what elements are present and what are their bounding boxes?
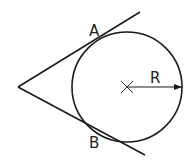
diagram-canvas: A B R: [0, 0, 190, 164]
upper-tangent-line: [18, 12, 140, 87]
label-a: A: [89, 22, 100, 40]
lower-tangent-line: [18, 87, 145, 155]
tangent-circle-diagram: A B R: [0, 0, 190, 164]
label-b: B: [89, 134, 99, 152]
label-r: R: [150, 69, 160, 87]
